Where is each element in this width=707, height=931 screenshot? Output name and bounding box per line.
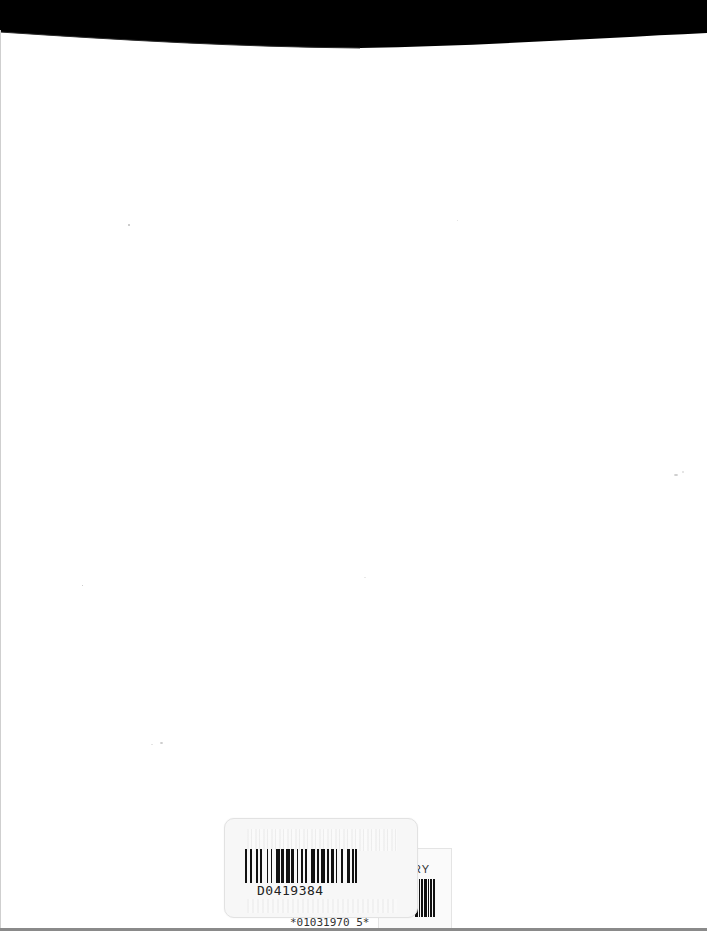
scanned-page: RY xyxy=(0,0,707,931)
barcode-number: D0419384 xyxy=(257,883,324,898)
scan-speck xyxy=(674,474,678,476)
call-number-text: *01031970 5* xyxy=(290,918,369,927)
scan-shadow-top-edge xyxy=(0,0,707,50)
secondary-barcode-graphic xyxy=(415,879,435,917)
sticker-background-pattern xyxy=(247,829,397,851)
scan-speck xyxy=(457,220,458,221)
scan-speck xyxy=(160,742,163,744)
scan-speck xyxy=(364,577,366,578)
library-barcode-sticker: D0419384 xyxy=(224,818,418,918)
page-left-edge xyxy=(0,30,1,931)
scan-speck xyxy=(82,585,83,586)
barcode-graphic xyxy=(245,849,357,883)
scan-speck xyxy=(151,744,153,745)
scan-speck xyxy=(128,224,130,226)
sticker-background-pattern xyxy=(247,899,397,913)
scan-speck xyxy=(682,471,684,473)
